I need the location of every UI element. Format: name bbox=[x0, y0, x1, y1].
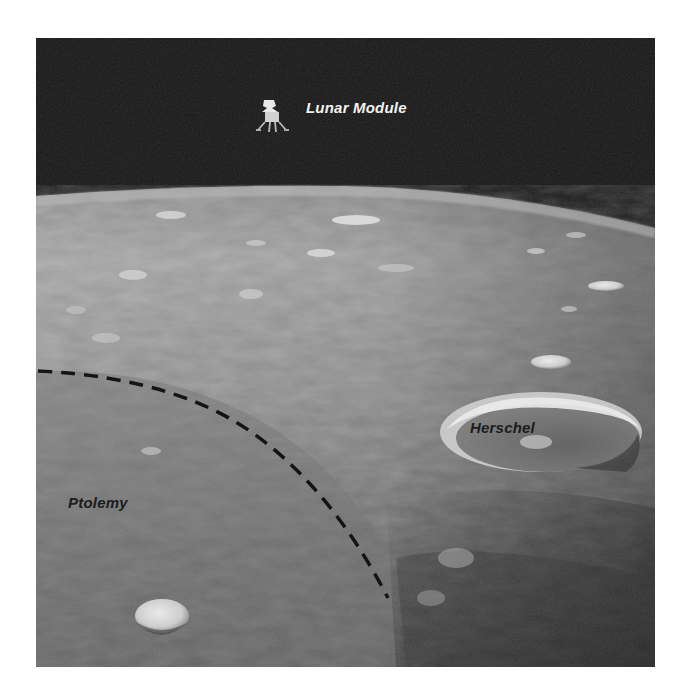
lunar-module-label: Lunar Module bbox=[306, 99, 407, 116]
herschel-label: Herschel bbox=[470, 419, 535, 436]
lunar-scene bbox=[36, 38, 655, 667]
lunar-surface-photo: Lunar Module Herschel Ptolemy bbox=[36, 38, 655, 667]
ptolemy-label: Ptolemy bbox=[68, 494, 128, 511]
